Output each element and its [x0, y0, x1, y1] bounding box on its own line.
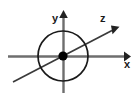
diagram-canvas: x y z	[0, 0, 138, 103]
z-axis-arrowhead	[111, 26, 120, 35]
x-axis-label: x	[124, 58, 131, 70]
z-axis-label: z	[100, 12, 106, 24]
y-axis-arrowhead	[59, 10, 68, 18]
y-axis-label: y	[52, 12, 59, 24]
origin-dot	[58, 51, 67, 60]
coordinate-axes-figure: x y z	[0, 0, 138, 103]
